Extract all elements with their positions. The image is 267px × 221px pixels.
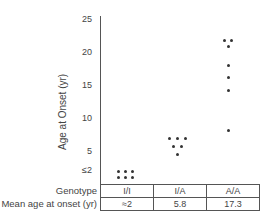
- data-point: [227, 76, 230, 79]
- y-tick-5: 5: [68, 146, 92, 156]
- genotype-row: I/I I/A A/A: [101, 185, 260, 198]
- data-point: [227, 45, 230, 48]
- data-point: [184, 137, 187, 140]
- data-point: [131, 176, 134, 179]
- genotype-cell: A/A: [207, 185, 260, 198]
- mean-age-cell: ≈2: [101, 198, 154, 211]
- y-tick-10: 10: [68, 113, 92, 123]
- data-point: [124, 170, 127, 173]
- y-tick-20: 20: [68, 47, 92, 57]
- y-tick-25: 25: [68, 14, 92, 24]
- data-point: [124, 176, 127, 179]
- data-point: [223, 39, 226, 42]
- data-point: [168, 137, 171, 140]
- genotype-cell: I/A: [154, 185, 207, 198]
- data-point: [227, 89, 230, 92]
- data-point: [117, 170, 120, 173]
- genotype-row-label: Genotype: [56, 185, 97, 196]
- data-point: [176, 137, 179, 140]
- data-point: [230, 39, 233, 42]
- data-point: [131, 170, 134, 173]
- mean-age-cell: 17.3: [207, 198, 260, 211]
- y-tick-le2: ≤2: [68, 165, 92, 175]
- mean-age-row: ≈2 5.8 17.3: [101, 198, 260, 211]
- genotype-table: I/I I/A A/A ≈2 5.8 17.3: [100, 184, 260, 211]
- y-axis-line: [100, 16, 101, 184]
- y-axis-label: Age at Onset (yr): [57, 74, 68, 150]
- genotype-cell: I/I: [101, 185, 154, 198]
- y-tick-15: 15: [68, 80, 92, 90]
- data-point: [172, 145, 175, 148]
- data-point: [227, 64, 230, 67]
- data-point: [176, 153, 179, 156]
- mean-age-row-label: Mean age at onset (yr): [1, 198, 97, 209]
- mean-age-cell: 5.8: [154, 198, 207, 211]
- data-point: [117, 176, 120, 179]
- data-point: [227, 129, 230, 132]
- data-point: [180, 145, 183, 148]
